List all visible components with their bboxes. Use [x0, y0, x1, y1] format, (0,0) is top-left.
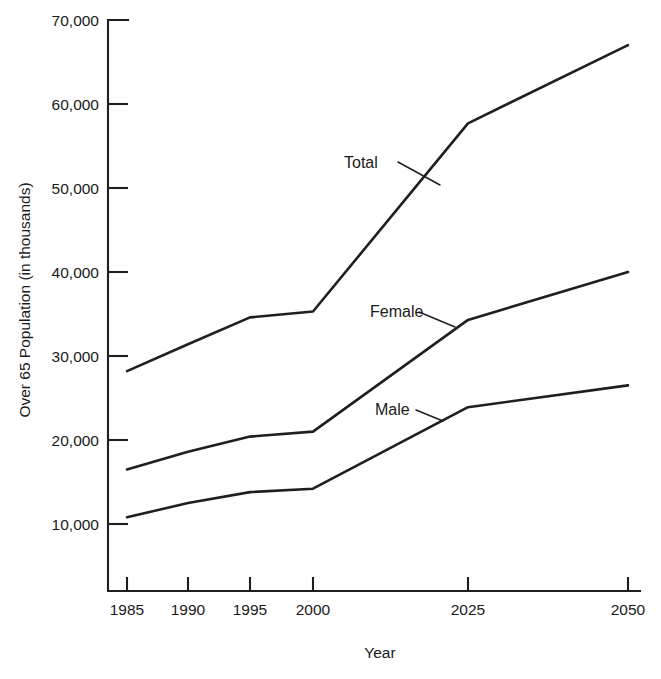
series-line-female	[127, 272, 628, 469]
leader-line-female	[419, 312, 455, 327]
y-tick-label-50000: 50,000	[52, 180, 100, 197]
leader-line-male	[416, 410, 443, 421]
y-axis-title: Over 65 Population (in thousands)	[16, 182, 33, 417]
y-tick-label-30000: 30,000	[52, 348, 100, 365]
x-tick-label-1990: 1990	[171, 601, 206, 618]
x-axis-title: Year	[364, 644, 395, 661]
y-tick-label-10000: 10,000	[52, 516, 100, 533]
series-label-female: Female	[370, 303, 423, 320]
x-tick-label-2050: 2050	[611, 601, 646, 618]
x-tick-label-2000: 2000	[296, 601, 331, 618]
series-line-total	[127, 45, 628, 371]
y-tick-label-40000: 40,000	[52, 264, 100, 281]
x-axis-ticks	[127, 577, 628, 591]
series-label-total: Total	[344, 154, 378, 171]
x-tick-label-1985: 1985	[110, 601, 144, 618]
line-chart: 70,000 60,000 50,000 40,000 30,000 20,00…	[0, 0, 661, 679]
x-tick-label-1995: 1995	[233, 601, 267, 618]
series-label-male: Male	[375, 401, 410, 418]
y-tick-label-20000: 20,000	[52, 432, 100, 449]
x-tick-label-2025: 2025	[451, 601, 485, 618]
chart-canvas: 70,000 60,000 50,000 40,000 30,000 20,00…	[0, 0, 661, 679]
y-tick-label-60000: 60,000	[52, 96, 100, 113]
y-axis-ticks	[108, 104, 128, 524]
y-tick-label-70000: 70,000	[52, 12, 100, 29]
